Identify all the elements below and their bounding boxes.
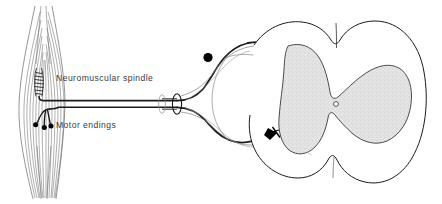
skeletal-muscle <box>19 6 65 199</box>
label-motor-endings: Motor endings <box>56 120 116 130</box>
central-canal <box>334 102 339 107</box>
reflex-arc-diagram: Neuromuscular spindle Motor endings <box>0 0 442 204</box>
nerve-trunk-cut-section <box>172 94 181 114</box>
nerve-trunk <box>159 94 182 114</box>
label-neuromuscular-spindle: Neuromuscular spindle <box>56 73 153 83</box>
neuromuscular-spindle <box>35 68 44 97</box>
spinal-cord-cross-section <box>249 21 426 183</box>
dorsal-root-ganglion <box>203 53 212 62</box>
anatomical-figure: Neuromuscular spindle Motor endings <box>0 0 442 204</box>
